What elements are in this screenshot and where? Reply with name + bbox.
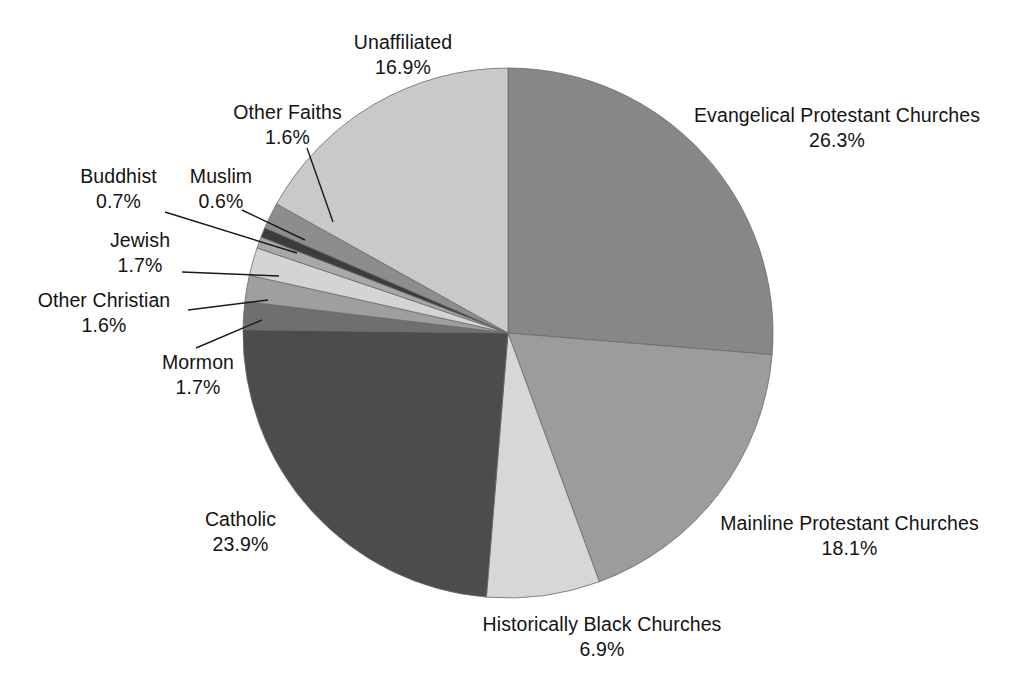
pie-chart: Unaffiliated 16.9% Other Faiths 1.6% Mus…	[0, 0, 1018, 676]
slice-label-mainline-protestant-churches-percent: 18.1%	[697, 536, 1002, 561]
pie-chart-canvas	[0, 0, 1018, 676]
slice-label-mainline-protestant-churches-name: Mainline Protestant Churches	[697, 511, 1002, 536]
slice-label-unaffiliated: Unaffiliated 16.9%	[318, 30, 488, 80]
slice-label-catholic: Catholic 23.9%	[168, 507, 313, 557]
slice-label-muslim-percent: 0.6%	[165, 189, 277, 214]
slice-label-muslim: Muslim 0.6%	[165, 164, 277, 214]
slice-label-mormon: Mormon 1.7%	[138, 350, 258, 400]
slice-label-muslim-name: Muslim	[165, 164, 277, 189]
slice-label-evangelical-protestant-churches-name: Evangelical Protestant Churches	[672, 103, 1002, 128]
slice-label-other-christian: Other Christian 1.6%	[18, 288, 190, 338]
slice-label-other-faiths: Other Faiths 1.6%	[200, 100, 375, 150]
slice-label-unaffiliated-percent: 16.9%	[318, 55, 488, 80]
slice-label-jewish: Jewish 1.7%	[85, 228, 195, 278]
slice-label-other-christian-percent: 1.6%	[18, 313, 190, 338]
slice-label-buddhist: Buddhist 0.7%	[57, 164, 180, 214]
slice-label-historically-black-churches: Historically Black Churches 6.9%	[449, 612, 755, 662]
slice-label-jewish-name: Jewish	[85, 228, 195, 253]
slice-label-evangelical-protestant-churches-percent: 26.3%	[672, 128, 1002, 153]
slice-label-unaffiliated-name: Unaffiliated	[318, 30, 488, 55]
slice-label-historically-black-churches-percent: 6.9%	[449, 637, 755, 662]
slice-label-historically-black-churches-name: Historically Black Churches	[449, 612, 755, 637]
slice-label-evangelical-protestant-churches: Evangelical Protestant Churches 26.3%	[672, 103, 1002, 153]
slice-label-other-faiths-name: Other Faiths	[200, 100, 375, 125]
slice-label-catholic-percent: 23.9%	[168, 532, 313, 557]
slice-label-jewish-percent: 1.7%	[85, 253, 195, 278]
slice-label-catholic-name: Catholic	[168, 507, 313, 532]
slice-label-buddhist-name: Buddhist	[57, 164, 180, 189]
slice-label-buddhist-percent: 0.7%	[57, 189, 180, 214]
slice-label-mainline-protestant-churches: Mainline Protestant Churches 18.1%	[697, 511, 1002, 561]
slice-label-mormon-percent: 1.7%	[138, 375, 258, 400]
pie-slice-catholic	[243, 330, 508, 597]
slice-label-mormon-name: Mormon	[138, 350, 258, 375]
slice-label-other-faiths-percent: 1.6%	[200, 125, 375, 150]
slice-label-other-christian-name: Other Christian	[18, 288, 190, 313]
